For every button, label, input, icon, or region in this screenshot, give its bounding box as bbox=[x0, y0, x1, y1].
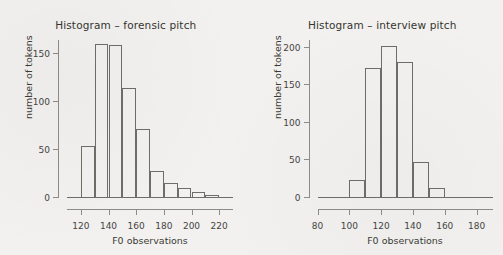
histogram-bar bbox=[365, 68, 381, 198]
y-tick-label-interview-50: 50 bbox=[289, 155, 300, 165]
x-axis-label-forensic: F0 observations bbox=[67, 235, 233, 246]
y-tick-label-forensic-150: 150 bbox=[33, 49, 50, 59]
plot-area-forensic: number of tokens F0 observations 0501001… bbox=[67, 40, 233, 198]
y-tick-forensic-150 bbox=[53, 53, 58, 54]
y-tick-label-interview-100: 100 bbox=[283, 118, 300, 128]
x-axis-label-interview: F0 observations bbox=[318, 235, 493, 246]
y-tick-label-forensic-50: 50 bbox=[39, 145, 50, 155]
baseline-forensic bbox=[67, 197, 233, 198]
y-tick-label-interview-0: 0 bbox=[295, 193, 301, 203]
x-tick-label-interview-180: 180 bbox=[468, 221, 485, 231]
histogram-bar bbox=[413, 162, 429, 198]
x-tick-label-forensic-120: 120 bbox=[72, 221, 89, 231]
x-tick-forensic-220 bbox=[219, 210, 220, 215]
y-tick-interview-100 bbox=[304, 122, 309, 123]
histogram-bar bbox=[136, 129, 150, 198]
y-tick-label-forensic-0: 0 bbox=[44, 193, 50, 203]
y-axis-line-interview bbox=[309, 40, 310, 198]
bars-forensic bbox=[67, 40, 233, 198]
y-tick-forensic-0 bbox=[53, 197, 58, 198]
y-tick-forensic-100 bbox=[53, 101, 58, 102]
histogram-figure: Histogram – forensic pitch number of tok… bbox=[0, 0, 503, 255]
y-tick-label-forensic-100: 100 bbox=[33, 97, 50, 107]
bars-interview bbox=[318, 40, 493, 198]
x-tick-forensic-200 bbox=[192, 210, 193, 215]
x-tick-interview-100 bbox=[349, 210, 350, 215]
y-tick-forensic-50 bbox=[53, 149, 58, 150]
chart-title-forensic: Histogram – forensic pitch bbox=[0, 19, 252, 31]
y-tick-interview-50 bbox=[304, 159, 309, 160]
y-tick-interview-200 bbox=[304, 47, 309, 48]
x-tick-interview-140 bbox=[413, 210, 414, 215]
x-tick-label-forensic-180: 180 bbox=[155, 221, 172, 231]
histogram-bar bbox=[381, 46, 397, 198]
chart-title-interview: Histogram – interview pitch bbox=[262, 19, 503, 31]
y-tick-label-interview-150: 150 bbox=[283, 80, 300, 90]
x-axis-line-interview bbox=[318, 209, 493, 210]
x-tick-forensic-180 bbox=[164, 210, 165, 215]
x-tick-label-interview-160: 160 bbox=[436, 221, 453, 231]
x-axis-line-forensic bbox=[67, 209, 233, 210]
x-tick-interview-80 bbox=[318, 210, 319, 215]
y-axis-line-forensic bbox=[58, 40, 59, 198]
x-tick-label-forensic-200: 200 bbox=[183, 221, 200, 231]
histogram-bar bbox=[95, 44, 109, 198]
histogram-bar bbox=[109, 45, 123, 198]
x-tick-forensic-140 bbox=[109, 210, 110, 215]
y-tick-label-interview-200: 200 bbox=[283, 43, 300, 53]
x-tick-interview-120 bbox=[381, 210, 382, 215]
histogram-bar bbox=[122, 88, 136, 198]
x-tick-label-forensic-140: 140 bbox=[100, 221, 117, 231]
x-tick-interview-180 bbox=[477, 210, 478, 215]
x-tick-interview-160 bbox=[445, 210, 446, 215]
x-tick-forensic-160 bbox=[136, 210, 137, 215]
x-tick-forensic-120 bbox=[81, 210, 82, 215]
y-axis-label-interview: number of tokens bbox=[272, 35, 283, 119]
histogram-bar bbox=[397, 62, 413, 198]
x-tick-label-interview-140: 140 bbox=[404, 221, 421, 231]
histogram-bar bbox=[349, 180, 365, 198]
histogram-bar bbox=[164, 183, 178, 198]
x-tick-label-interview-80: 80 bbox=[312, 221, 323, 231]
y-tick-interview-0 bbox=[304, 197, 309, 198]
histogram-bar bbox=[81, 146, 95, 198]
baseline-interview bbox=[318, 197, 493, 198]
panel-forensic-pitch: Histogram – forensic pitch number of tok… bbox=[0, 0, 252, 255]
x-tick-label-forensic-160: 160 bbox=[128, 221, 145, 231]
x-tick-label-interview-120: 120 bbox=[373, 221, 390, 231]
histogram-bar bbox=[150, 171, 164, 198]
x-tick-label-interview-100: 100 bbox=[341, 221, 358, 231]
x-tick-label-forensic-220: 220 bbox=[211, 221, 228, 231]
panel-interview-pitch: Histogram – interview pitch number of to… bbox=[252, 0, 503, 255]
y-tick-interview-150 bbox=[304, 84, 309, 85]
plot-area-interview: number of tokens F0 observations 0501001… bbox=[318, 40, 493, 198]
